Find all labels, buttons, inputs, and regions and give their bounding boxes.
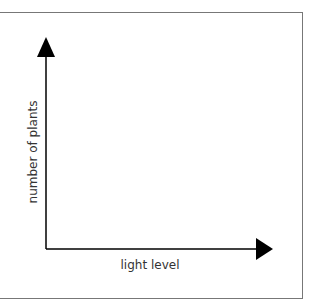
y-axis-label: number of plants [26, 92, 40, 212]
x-axis-arrow-icon [256, 238, 273, 260]
x-axis-label: light level [110, 258, 190, 272]
y-axis-arrow-icon [37, 37, 55, 57]
